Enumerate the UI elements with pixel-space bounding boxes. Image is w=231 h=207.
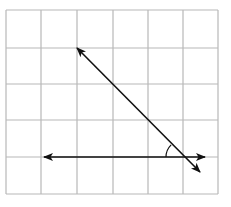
diagonal-line (77, 48, 200, 172)
angle-arc-mark (166, 145, 171, 157)
grid (6, 10, 218, 194)
grid-diagram (0, 0, 231, 207)
